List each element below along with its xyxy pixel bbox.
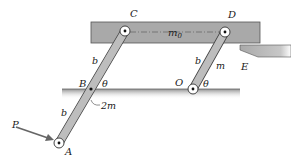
label-b-upper-right: b	[195, 55, 201, 66]
label-b-lower: b	[61, 107, 67, 118]
pin-d	[220, 27, 230, 37]
label-a: A	[64, 146, 72, 157]
pin-c	[120, 26, 130, 36]
label-2m: 2m	[100, 100, 116, 111]
leader-2m	[91, 100, 100, 105]
label-theta-o: θ	[203, 78, 209, 89]
label-o: O	[175, 77, 183, 88]
label-d: D	[227, 9, 236, 20]
force-p-arrow	[16, 127, 54, 141]
pivot-b	[89, 87, 92, 90]
label-b: B	[78, 78, 86, 89]
label-theta-b: θ	[102, 78, 108, 89]
label-e: E	[240, 61, 249, 72]
pin-o	[188, 84, 198, 94]
label-m: m	[216, 60, 225, 71]
bar-ca	[59, 31, 125, 143]
pin-a	[54, 138, 64, 148]
label-c: C	[130, 8, 138, 19]
label-p: P	[11, 119, 19, 130]
label-b-upper-left: b	[92, 55, 98, 66]
support-e	[240, 45, 291, 57]
mechanism-diagram: C D m0 E b b m B θ O θ b 2m P A	[0, 0, 291, 162]
